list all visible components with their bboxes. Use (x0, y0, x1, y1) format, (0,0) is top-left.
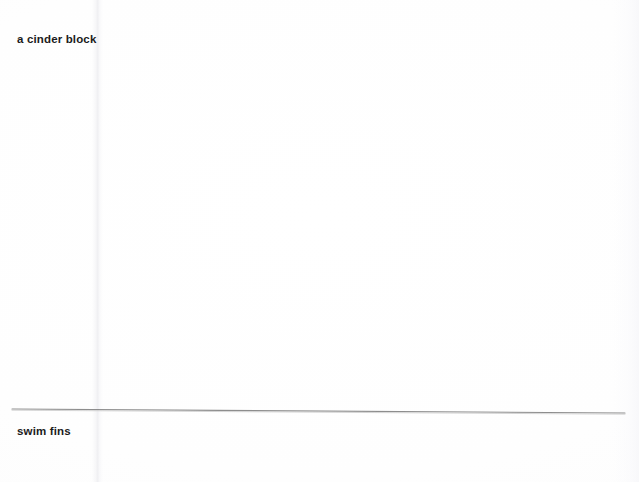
entry-text-top: a cinder block (17, 32, 96, 46)
horizontal-rule-separator (0, 400, 639, 424)
rule-line-shadow (12, 410, 625, 414)
right-edge-shading-artifact (613, 0, 639, 482)
document-page: a cinder block swim fins (0, 0, 639, 482)
paper-background (0, 0, 639, 482)
rule-line (12, 409, 625, 413)
entry-text-bottom: swim fins (17, 424, 71, 438)
horizontal-rule-svg (0, 400, 639, 424)
fold-crease-artifact (92, 0, 103, 482)
